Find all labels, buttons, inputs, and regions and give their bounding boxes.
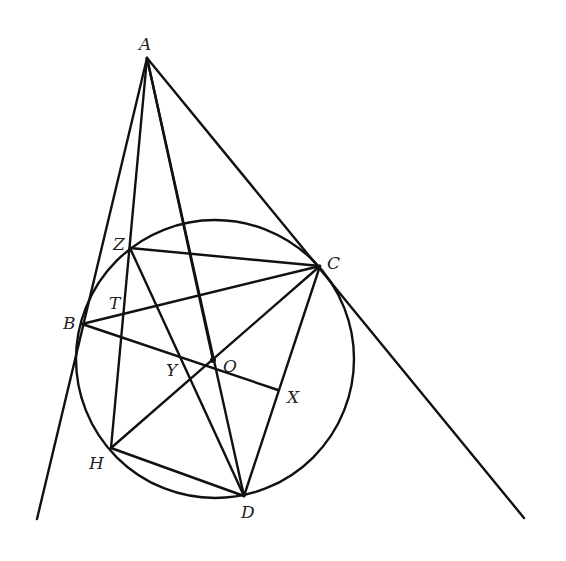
segment-ch: [111, 266, 320, 448]
label-o: O: [223, 356, 237, 376]
label-t: T: [109, 293, 122, 313]
segment-ao: [147, 58, 213, 360]
segment-zc: [130, 248, 320, 266]
label-b: B: [62, 313, 76, 333]
label-x: X: [285, 387, 300, 407]
label-z: Z: [112, 234, 126, 254]
label-a: A: [137, 34, 151, 54]
segment-bx: [82, 324, 278, 390]
tangent-line-ab: [37, 58, 147, 519]
tangent-line-ac: [147, 58, 524, 518]
label-y: Y: [166, 360, 179, 380]
label-d: D: [240, 502, 255, 522]
geometry-diagram: A Z C T B Y O X H D: [0, 0, 566, 561]
label-c: C: [327, 253, 340, 273]
label-h: H: [88, 453, 105, 473]
center-point-o: [210, 357, 216, 363]
